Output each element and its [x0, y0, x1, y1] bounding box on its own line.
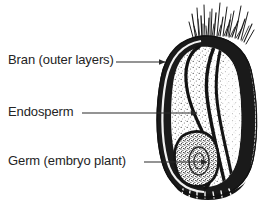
label-bran: Bran (outer layers): [8, 52, 114, 67]
label-germ: Germ (embryo plant): [8, 153, 126, 168]
label-endosperm: Endosperm: [8, 104, 74, 119]
leader-lines: [0, 0, 272, 203]
wheat-kernel-diagram: Bran (outer layers) Endosperm Germ (embr…: [0, 0, 272, 203]
